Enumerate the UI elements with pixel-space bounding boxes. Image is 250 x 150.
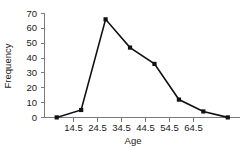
frequency-polygon-chart: Frequency 70 60 50 40 30 20 10 0: [0, 0, 250, 150]
y-tick-label: 40: [26, 52, 37, 63]
data-point-marker: [201, 109, 205, 113]
x-tick-label: 44.5: [136, 122, 155, 133]
x-tick-label: 64.5: [184, 122, 203, 133]
y-tick-label: 60: [26, 22, 37, 33]
x-tick-label: 24.5: [88, 122, 107, 133]
x-tick-label: 54.5: [160, 122, 179, 133]
data-point-marker: [55, 115, 59, 119]
y-tick-label: 20: [26, 82, 37, 93]
data-point-marker: [79, 108, 83, 112]
y-axis-title: Frequency: [2, 43, 13, 88]
data-point-marker: [152, 62, 156, 66]
x-tick-label: 14.5: [64, 122, 83, 133]
data-point-marker: [177, 97, 181, 101]
y-tick-label: 0: [32, 112, 37, 123]
chart-canvas: Frequency 70 60 50 40 30 20 10 0: [0, 0, 250, 150]
y-tick-label: 10: [26, 97, 37, 108]
data-point-marker: [103, 17, 107, 21]
y-tick-label: 50: [26, 37, 37, 48]
y-tick-label: 30: [26, 67, 37, 78]
data-point-marker: [226, 115, 230, 119]
y-tick-label: 70: [26, 8, 37, 19]
x-tick-label: 34.5: [112, 122, 131, 133]
x-axis-title: Age: [125, 135, 142, 146]
data-point-marker: [128, 45, 132, 49]
